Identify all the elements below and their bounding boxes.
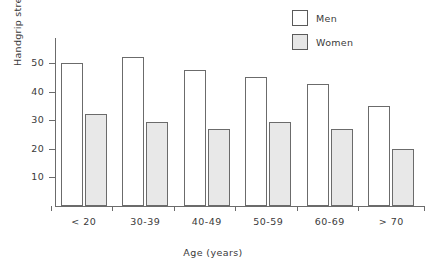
handgrip-strength-bar-chart: Men Women Handgrip strength (kg) 1020304… — [0, 0, 426, 270]
bars-layer — [0, 0, 426, 206]
bar-men — [61, 63, 83, 206]
bar-women — [269, 122, 291, 206]
bar-men — [122, 57, 144, 206]
x-axis-tick — [51, 206, 52, 211]
x-axis-line — [55, 206, 424, 207]
x-axis-tick — [358, 206, 359, 211]
x-axis-tick-label: > 70 — [361, 216, 421, 227]
bar-women — [208, 129, 230, 206]
bar-women — [146, 122, 168, 206]
x-axis-tick-label: 50-59 — [238, 216, 298, 227]
bar-men — [184, 70, 206, 206]
bar-women — [85, 114, 107, 206]
bar-men — [307, 84, 329, 206]
x-axis-tick — [297, 206, 298, 211]
bar-women — [392, 149, 414, 206]
x-axis-tick-label: 60-69 — [300, 216, 360, 227]
x-axis-title: Age (years) — [0, 247, 426, 258]
bar-men — [368, 106, 390, 206]
bar-men — [245, 77, 267, 206]
x-axis-tick-label: 30-39 — [115, 216, 175, 227]
x-axis-tick-label: 40-49 — [177, 216, 237, 227]
x-axis-tick — [112, 206, 113, 211]
x-axis-tick — [235, 206, 236, 211]
bar-women — [331, 129, 353, 206]
x-axis-tick — [424, 206, 425, 211]
x-axis-tick-label: < 20 — [54, 216, 114, 227]
x-axis-tick — [174, 206, 175, 211]
